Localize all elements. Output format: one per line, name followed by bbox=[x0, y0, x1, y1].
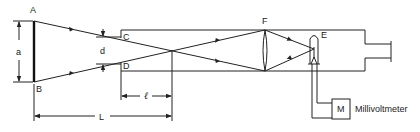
label-d-point: D bbox=[123, 61, 130, 71]
meter-caption: Millivoltmeter bbox=[355, 104, 408, 114]
eyepiece bbox=[365, 41, 391, 62]
label-a-dimension: a bbox=[16, 47, 21, 57]
lens bbox=[263, 30, 267, 71]
label-e: E bbox=[321, 30, 327, 40]
label-a-point: A bbox=[30, 5, 36, 15]
label-l-dimension: ℓ bbox=[144, 90, 148, 101]
label-L-dimension: L bbox=[99, 112, 104, 122]
detector bbox=[308, 36, 320, 65]
label-d-dimension: d bbox=[100, 46, 105, 56]
tube bbox=[121, 30, 365, 71]
label-b-point: B bbox=[36, 84, 42, 94]
label-m: M bbox=[337, 104, 345, 114]
optical-diagram: A B a d C D bbox=[0, 0, 420, 132]
ray-b bbox=[34, 30, 265, 82]
ray-a bbox=[34, 21, 265, 71]
label-c-point: C bbox=[123, 32, 130, 42]
label-f: F bbox=[262, 16, 268, 26]
meter-wires bbox=[312, 64, 332, 118]
converging-rays bbox=[265, 30, 314, 71]
